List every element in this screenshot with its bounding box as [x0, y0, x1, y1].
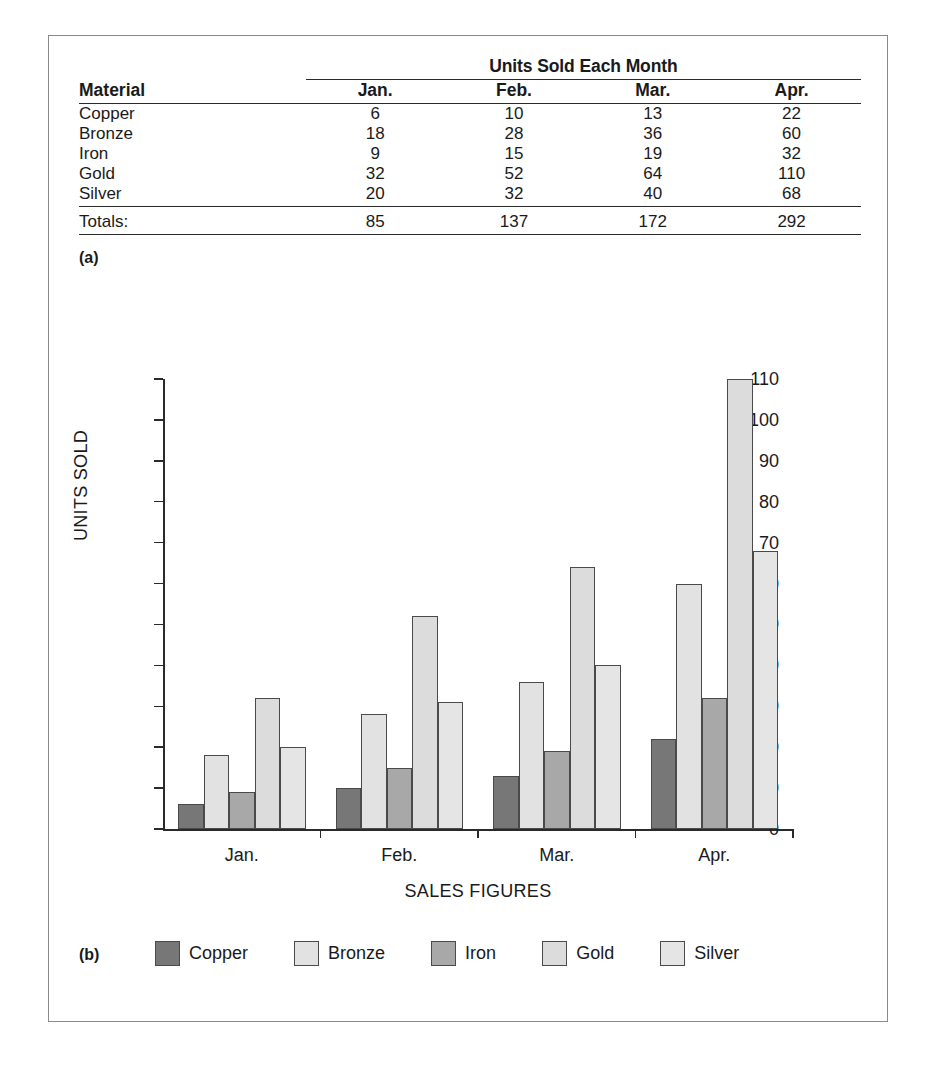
totals-bottom-rule-material — [79, 232, 306, 235]
cell-feb: 52 — [445, 164, 584, 184]
legend-label: Copper — [189, 943, 248, 964]
cell-material: Copper — [79, 104, 306, 125]
bar-gold-feb — [412, 616, 438, 829]
column-header-feb: Feb. — [445, 80, 584, 102]
bar-gold-apr — [727, 379, 753, 829]
table-row: Silver 20 32 40 68 — [79, 184, 861, 204]
cell-apr: 68 — [722, 184, 861, 204]
y-tick-mark — [154, 378, 163, 379]
legend-item-gold[interactable]: Gold — [542, 941, 614, 966]
cell-material: Bronze — [79, 124, 306, 144]
chart-legend-row: (b) CopperBronzeIronGoldSilver — [49, 941, 889, 975]
y-tick-mark — [154, 542, 163, 543]
bar-iron-feb — [387, 768, 413, 829]
legend-swatch-gold-icon — [542, 941, 567, 966]
totals-row: Totals: 85 137 172 292 — [79, 212, 861, 232]
legend-label: Iron — [465, 943, 496, 964]
bar-copper-jan — [178, 804, 204, 829]
cell-mar: 13 — [583, 104, 722, 125]
y-tick-mark — [154, 583, 163, 584]
x-axis-title: SALES FIGURES — [163, 881, 793, 902]
totals-apr: 292 — [722, 212, 861, 232]
bar-bronze-mar — [519, 682, 545, 829]
legend-swatch-iron-icon — [431, 941, 456, 966]
cell-jan: 32 — [306, 164, 445, 184]
cell-mar: 64 — [583, 164, 722, 184]
x-tick-mark — [477, 829, 478, 838]
units-sold-table-panel: Units Sold Each Month Material Jan. Feb.… — [79, 56, 861, 267]
bar-bronze-feb — [361, 714, 387, 829]
y-axis-title: UNITS SOLD — [71, 430, 92, 541]
cell-feb: 28 — [445, 124, 584, 144]
cell-mar: 19 — [583, 144, 722, 164]
x-tick-label: Feb. — [381, 845, 417, 866]
cell-material: Gold — [79, 164, 306, 184]
y-tick-mark — [154, 746, 163, 747]
cell-jan: 9 — [306, 144, 445, 164]
table-row: Gold 32 52 64 110 — [79, 164, 861, 184]
legend-item-silver[interactable]: Silver — [660, 941, 739, 966]
legend-item-iron[interactable]: Iron — [431, 941, 496, 966]
y-tick-mark — [154, 706, 163, 707]
bar-iron-jan — [229, 792, 255, 829]
bar-iron-mar — [544, 751, 570, 829]
panel-b-label: (b) — [79, 946, 99, 964]
y-tick-mark — [154, 828, 163, 829]
x-tick-mark — [635, 829, 636, 838]
table-row: Copper 6 10 13 22 — [79, 104, 861, 125]
column-header-jan: Jan. — [306, 80, 445, 102]
panel-a-label: (a) — [79, 249, 861, 267]
cell-mar: 40 — [583, 184, 722, 204]
cell-feb: 32 — [445, 184, 584, 204]
legend-item-bronze[interactable]: Bronze — [294, 941, 385, 966]
totals-bottom-rule-apr — [722, 232, 861, 235]
x-tick-mark — [320, 829, 321, 838]
table-row: Bronze 18 28 36 60 — [79, 124, 861, 144]
table-header-row: Material Jan. Feb. Mar. Apr. — [79, 80, 861, 102]
bar-copper-mar — [493, 776, 519, 829]
legend-item-copper[interactable]: Copper — [155, 941, 248, 966]
y-tick-mark — [154, 501, 163, 502]
chart-legend: CopperBronzeIronGoldSilver — [155, 941, 855, 966]
figure-frame: Units Sold Each Month Material Jan. Feb.… — [48, 35, 888, 1022]
totals-bottom-rule — [79, 232, 861, 235]
cell-apr: 110 — [722, 164, 861, 184]
legend-swatch-silver-icon — [660, 941, 685, 966]
x-tick-label: Mar. — [539, 845, 574, 866]
column-header-material: Material — [79, 80, 306, 102]
cell-feb: 10 — [445, 104, 584, 125]
cell-apr: 32 — [722, 144, 861, 164]
bar-silver-feb — [438, 702, 464, 829]
legend-label: Bronze — [328, 943, 385, 964]
table-spanner-title: Units Sold Each Month — [306, 56, 861, 77]
bar-copper-apr — [651, 739, 677, 829]
bar-gold-mar — [570, 567, 596, 829]
cell-material: Iron — [79, 144, 306, 164]
bar-gold-jan — [255, 698, 281, 829]
cell-jan: 6 — [306, 104, 445, 125]
y-tick-mark — [154, 419, 163, 420]
column-header-mar: Mar. — [583, 80, 722, 102]
legend-label: Gold — [576, 943, 614, 964]
totals-jan: 85 — [306, 212, 445, 232]
cell-material: Silver — [79, 184, 306, 204]
cell-mar: 36 — [583, 124, 722, 144]
y-tick-mark — [154, 665, 163, 666]
y-axis-line — [163, 379, 165, 829]
cell-apr: 22 — [722, 104, 861, 125]
totals-label: Totals: — [79, 212, 306, 232]
totals-bottom-rule-mar — [583, 232, 722, 235]
cell-jan: 20 — [306, 184, 445, 204]
spanner-empty-cell — [79, 56, 306, 77]
bar-copper-feb — [336, 788, 362, 829]
x-tick-label: Jan. — [225, 845, 259, 866]
y-tick-mark — [154, 787, 163, 788]
cell-feb: 15 — [445, 144, 584, 164]
totals-bottom-rule-feb — [445, 232, 584, 235]
legend-swatch-copper-icon — [155, 941, 180, 966]
y-tick-mark — [154, 460, 163, 461]
units-sold-table: Units Sold Each Month Material Jan. Feb.… — [79, 56, 861, 235]
legend-label: Silver — [694, 943, 739, 964]
bar-silver-mar — [595, 665, 621, 829]
column-header-apr: Apr. — [722, 80, 861, 102]
